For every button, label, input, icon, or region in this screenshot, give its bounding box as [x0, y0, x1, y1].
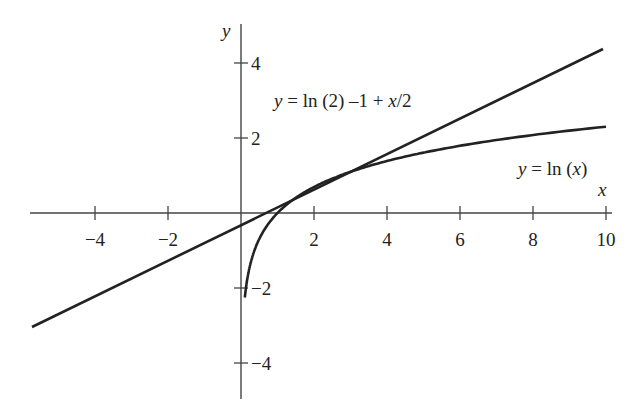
- log-curve-label: y = ln (x): [516, 158, 587, 180]
- x-tick-label: 6: [455, 229, 465, 250]
- y-tick-label: 4: [251, 53, 261, 74]
- x-tick-label: 2: [309, 229, 319, 250]
- axes: [30, 24, 612, 399]
- y-axis-label: y: [220, 20, 231, 41]
- x-tick-label: 10: [597, 229, 616, 250]
- log-curve: [245, 127, 606, 298]
- x-tick-label: 4: [382, 229, 392, 250]
- y-tick-label: 2: [251, 128, 261, 149]
- x-axis-label: x: [597, 179, 607, 200]
- y-tick-label: −4: [251, 353, 272, 374]
- y-tick-label: −2: [251, 278, 271, 299]
- tangent-line-label: y = ln (2) –1 + x/2: [272, 90, 412, 112]
- x-tick-label: −4: [85, 229, 106, 250]
- x-tick-label: 8: [528, 229, 538, 250]
- x-tick-label: −2: [158, 229, 178, 250]
- chart: −4−224681042−2−4 y x y = ln (2) –1 + x/2…: [0, 0, 638, 413]
